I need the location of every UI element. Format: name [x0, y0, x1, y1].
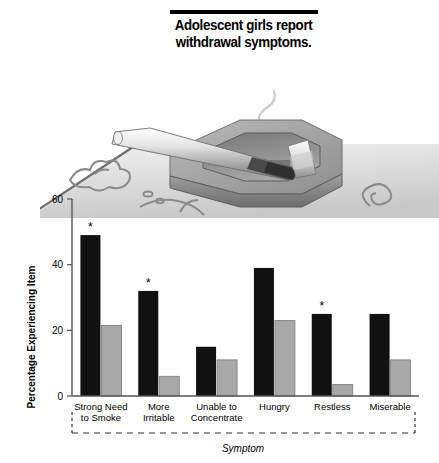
bar-dark [196, 347, 216, 396]
bar-dark [80, 235, 100, 396]
x-axis-category-labels: Strong Needto SmokeMoreIrritableUnable t… [74, 401, 410, 423]
x-category-label: Hungry [259, 401, 290, 412]
significance-star: * [319, 299, 324, 313]
x-category-label: Concentrate [191, 412, 243, 423]
bar-light [101, 325, 121, 396]
page-title: Adolescent girls report withdrawal sympt… [172, 17, 315, 51]
significance-star: * [88, 220, 93, 234]
x-category-label: Strong Need [74, 401, 127, 412]
title-rule [170, 10, 318, 14]
y-tick-label: 40 [52, 259, 64, 270]
significance-star: * [146, 276, 151, 290]
bar-groups: *** [80, 220, 410, 396]
bar-light [217, 360, 237, 396]
y-tick-label: 60 [52, 194, 64, 205]
x-category-label: Restless [314, 401, 351, 412]
symptom-bracket [72, 412, 415, 433]
y-tick-label: 0 [57, 391, 63, 402]
bar-light [275, 320, 295, 396]
bar-light [333, 385, 353, 396]
bar-chart: Percentage Experiencing Item 0204060 ***… [0, 190, 439, 463]
y-axis-title: Percentage Experiencing Item [26, 265, 37, 408]
bar-dark [312, 314, 332, 396]
bar-light [391, 360, 411, 396]
x-category-label: Miserable [369, 401, 410, 412]
bar-dark [370, 314, 390, 396]
bar-dark [254, 268, 274, 396]
x-category-label: More [148, 401, 170, 412]
x-axis-title: Symptom [222, 443, 264, 454]
y-tick-label: 20 [52, 325, 64, 336]
x-category-label: Irritable [143, 412, 175, 423]
bar-dark [138, 291, 158, 396]
bar-light [159, 376, 179, 396]
x-category-label: Unable to [196, 401, 237, 412]
title-block: Adolescent girls report withdrawal sympt… [166, 10, 321, 51]
y-axis-ticks: 0204060 [52, 194, 72, 402]
x-category-label: to Smoke [81, 412, 121, 423]
